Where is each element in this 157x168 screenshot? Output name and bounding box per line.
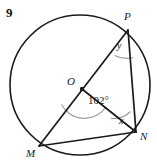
segment-mn-chord (39, 132, 136, 146)
vertex-label-p: P (124, 11, 131, 22)
problem-number-label: 9 (6, 6, 13, 19)
vertex-label-n: N (140, 131, 147, 142)
angle-label-x: x (119, 116, 123, 126)
angle-label-y: y (117, 41, 121, 51)
center-point-dot (80, 87, 84, 91)
geometry-figure: 9 P N M O y x 102° (0, 0, 157, 168)
segment-pn-chord (128, 30, 136, 132)
figure-canvas (0, 0, 157, 168)
center-label-o: O (67, 76, 75, 87)
central-angle-measure-label: 102° (88, 95, 109, 106)
vertex-label-m: M (26, 148, 35, 159)
